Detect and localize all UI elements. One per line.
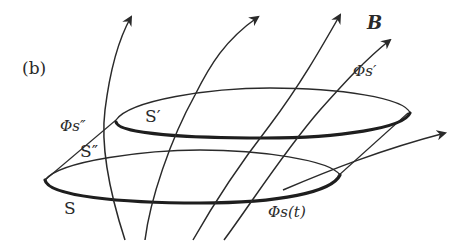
flux-side-label: Φs″ (60, 117, 86, 135)
surface-upper-label: S′ (145, 106, 161, 126)
surface-side-label: S″ (80, 141, 98, 161)
magnetic-flux-diagram: (b) B Φs′ S′ Φs″ S″ S Φs(t) (0, 0, 474, 248)
surface-s-front-rim (45, 175, 340, 203)
field-line-3 (193, 15, 340, 240)
field-line-5 (283, 133, 445, 190)
panel-label: (b) (22, 58, 46, 78)
flux-upper-label: Φs′ (353, 62, 377, 80)
flux-lower-label: Φs(t) (268, 203, 306, 221)
vector-b-label: B (366, 12, 382, 33)
field-line-2 (145, 17, 258, 240)
surface-lower-label: S (64, 198, 76, 218)
